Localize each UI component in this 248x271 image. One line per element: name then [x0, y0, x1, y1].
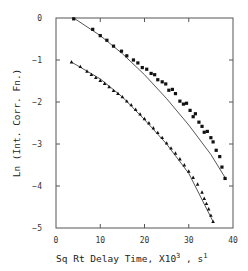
plot-frame	[56, 18, 233, 228]
square-marker	[145, 68, 148, 71]
square-marker	[153, 73, 156, 76]
y-tick-label: 0	[37, 14, 42, 23]
y-tick-label: −2	[32, 98, 42, 107]
x-tick-label: 40	[228, 236, 238, 245]
y-axis-ticks: 0−1−2−3−4−5	[32, 14, 233, 233]
y-tick-label: −5	[32, 224, 42, 233]
data-markers	[70, 17, 227, 223]
square-marker	[161, 80, 164, 83]
x-tick-label: 10	[95, 236, 105, 245]
y-tick-label: −4	[32, 182, 42, 191]
square-marker	[218, 155, 221, 158]
fit-line	[74, 18, 227, 180]
square-marker	[215, 149, 218, 152]
square-marker	[185, 102, 188, 105]
square-marker	[125, 54, 128, 57]
triangle-marker	[200, 190, 204, 193]
triangle-marker	[70, 60, 74, 63]
square-marker	[112, 45, 115, 48]
x-tick-label: 20	[140, 236, 150, 245]
square-marker	[197, 121, 200, 124]
square-marker	[194, 112, 197, 115]
triangle-marker	[207, 207, 211, 210]
square-marker	[99, 34, 102, 37]
y-axis-title: Ln (Int. Corr. Fn.)	[11, 69, 22, 178]
x-tick-label: 30	[184, 236, 194, 245]
square-marker	[156, 78, 159, 81]
y-tick-label: −1	[32, 56, 42, 65]
square-marker	[132, 58, 135, 61]
chart: 010203040 0−1−2−3−4−5 Sq Rt Delay Time, …	[0, 0, 248, 271]
triangle-marker	[211, 220, 215, 223]
square-marker	[105, 39, 108, 42]
square-marker	[120, 50, 123, 53]
x-tick-label: 0	[54, 236, 59, 245]
y-tick-label: −3	[32, 140, 42, 149]
square-marker	[188, 109, 191, 112]
square-marker	[209, 136, 212, 139]
fit-lines	[72, 18, 227, 222]
square-marker	[192, 115, 195, 118]
square-marker	[150, 72, 153, 75]
triangle-marker	[196, 182, 200, 185]
square-marker	[72, 17, 75, 20]
square-marker	[136, 61, 139, 64]
square-marker	[223, 177, 226, 180]
triangle-marker	[174, 151, 178, 154]
triangle-marker	[202, 197, 206, 200]
square-marker	[220, 166, 223, 169]
square-marker	[167, 89, 170, 92]
square-marker	[171, 88, 174, 91]
square-marker	[200, 125, 203, 128]
triangle-marker	[85, 69, 89, 72]
square-marker	[211, 140, 214, 143]
square-marker	[182, 103, 185, 106]
square-marker	[174, 92, 177, 95]
triangle-marker	[178, 157, 182, 160]
fit-line	[72, 62, 214, 222]
triangle-marker	[205, 202, 209, 205]
triangle-marker	[191, 176, 195, 179]
square-marker	[164, 82, 167, 85]
square-marker	[178, 100, 181, 103]
square-marker	[141, 66, 144, 69]
triangle-marker	[183, 163, 187, 166]
x-axis-title: Sq Rt Delay Time, X103 , s1	[56, 252, 207, 264]
x-axis-ticks: 010203040	[54, 18, 238, 245]
square-marker	[203, 131, 206, 134]
square-marker	[206, 130, 209, 133]
square-marker	[91, 28, 94, 31]
